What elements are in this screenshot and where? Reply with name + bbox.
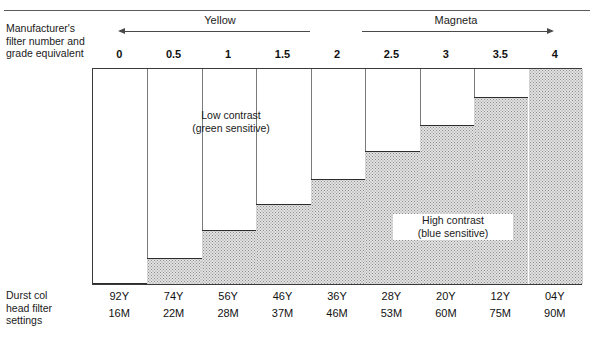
- durst-yellow-6: 20Y: [419, 289, 473, 304]
- chart-column-1: [147, 69, 201, 284]
- chart-bar-8: [529, 69, 583, 284]
- durst-magenta-0: 16M: [92, 306, 146, 321]
- durst-yellow-8: 04Y: [528, 289, 582, 304]
- durst-magenta-2: 28M: [201, 306, 255, 321]
- caption-durst: Durst col head filter settings: [6, 289, 90, 327]
- step-chart-plot: Low contrast (green sensitive) High cont…: [92, 68, 582, 285]
- chart-bar-7: [474, 97, 528, 284]
- band-label-magneta: Magneta: [406, 14, 506, 26]
- figure-root: Yellow Magneta Manufacturer's filter num…: [0, 0, 594, 346]
- chart-column-8: [529, 69, 583, 284]
- durst-yellow-7: 12Y: [473, 289, 527, 304]
- durst-magenta-3: 37M: [255, 306, 309, 321]
- grade-number-7: 3.5: [473, 46, 527, 62]
- chart-column-6: [420, 69, 474, 284]
- durst-magenta-7: 75M: [473, 306, 527, 321]
- durst-magenta-6: 60M: [419, 306, 473, 321]
- band-label-yellow: Yellow: [170, 14, 270, 26]
- annotation-low-contrast: Low contrast (green sensitive): [171, 109, 291, 135]
- grade-number-row: 0 0.5 1 1.5 2 2.5 3 3.5 4: [92, 46, 582, 62]
- chart-column-3: [256, 69, 310, 284]
- chart-bar-6: [420, 125, 474, 284]
- chart-bar-3: [256, 204, 310, 284]
- grade-number-6: 3: [419, 46, 473, 62]
- caption-manufacturer: Manufacturer's filter number and grade e…: [6, 22, 90, 60]
- durst-row-yellow: 92Y 74Y 56Y 46Y 36Y 28Y 20Y 12Y 04Y: [92, 289, 582, 304]
- grade-number-8: 4: [528, 46, 582, 62]
- durst-yellow-3: 46Y: [255, 289, 309, 304]
- band-arrow-line-yellow: [125, 31, 310, 32]
- top-divider-rule: [4, 10, 590, 11]
- chart-column-separator: [147, 69, 148, 284]
- chart-column-5: [365, 69, 419, 284]
- grade-number-3: 1.5: [255, 46, 309, 62]
- durst-row-magenta: 16M 22M 28M 37M 46M 53M 60M 75M 90M: [92, 306, 582, 321]
- durst-magenta-4: 46M: [310, 306, 364, 321]
- chart-column-7: [474, 69, 528, 284]
- grade-number-1: 0.5: [146, 46, 200, 62]
- grade-number-5: 2.5: [364, 46, 418, 62]
- grade-number-0: 0: [92, 46, 146, 62]
- durst-yellow-2: 56Y: [201, 289, 255, 304]
- durst-yellow-0: 92Y: [92, 289, 146, 304]
- chart-bar-1: [147, 258, 201, 284]
- band-arrow-head-magneta-icon: [547, 28, 554, 34]
- durst-yellow-4: 36Y: [310, 289, 364, 304]
- durst-magenta-8: 90M: [528, 306, 582, 321]
- band-arrow-head-yellow-icon: [118, 28, 125, 34]
- durst-yellow-1: 74Y: [146, 289, 200, 304]
- grade-number-4: 2: [310, 46, 364, 62]
- chart-column-2: [202, 69, 256, 284]
- chart-bar-0: [93, 283, 147, 284]
- band-arrow-line-magneta: [362, 31, 547, 32]
- chart-bar-4: [311, 179, 365, 284]
- durst-yellow-5: 28Y: [364, 289, 418, 304]
- chart-column-4: [311, 69, 365, 284]
- chart-column-0: [93, 69, 147, 284]
- durst-magenta-1: 22M: [146, 306, 200, 321]
- annotation-high-contrast: High contrast (blue sensitive): [393, 214, 513, 240]
- durst-magenta-5: 53M: [364, 306, 418, 321]
- chart-bar-2: [202, 230, 256, 284]
- grade-number-2: 1: [201, 46, 255, 62]
